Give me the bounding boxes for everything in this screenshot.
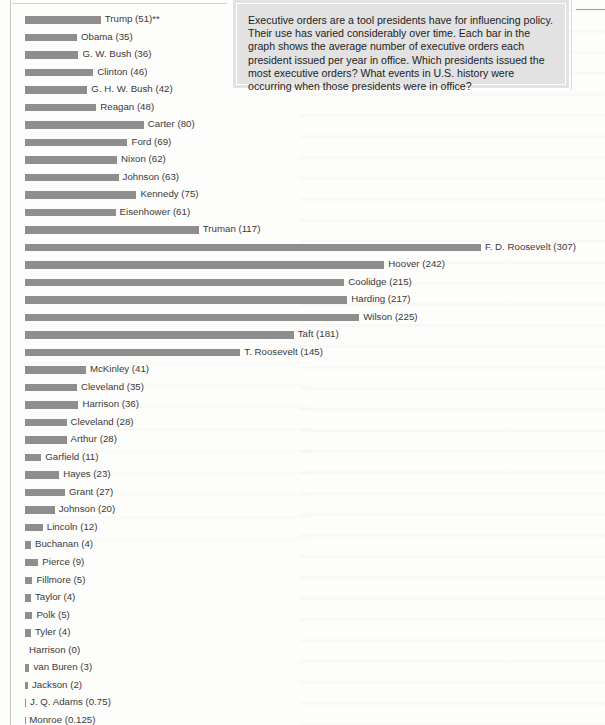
figure-page: Presidential Executive Orders Executive … xyxy=(0,0,605,725)
bar-label: Jackson (2) xyxy=(32,678,82,692)
top-right-rule xyxy=(576,9,605,10)
chart-bar-row: Garfield (11) xyxy=(0,450,605,468)
bar-hoover xyxy=(25,261,384,269)
bar-label: Buchanan (4) xyxy=(35,537,93,551)
bar-label: Cleveland (28) xyxy=(71,415,134,429)
chart-bar-row: Harding (217) xyxy=(0,292,605,310)
chart-bar-row: Trump (51)** xyxy=(0,12,605,30)
bar-johnson xyxy=(25,174,119,182)
chart-bar-row: G. W. Bush (36) xyxy=(0,47,605,65)
bar-t-roosevelt xyxy=(25,349,240,357)
bar-label: Wilson (225) xyxy=(363,310,417,324)
bar-label: J. Q. Adams (0.75) xyxy=(30,695,111,709)
chart-bar-row: Eisenhower (61) xyxy=(0,205,605,223)
bar-cleveland xyxy=(25,384,77,392)
bar-pierce xyxy=(25,559,38,567)
bar-coolidge xyxy=(25,279,344,287)
bar-harrison xyxy=(25,401,78,409)
bar-label: Truman (117) xyxy=(203,222,261,236)
bar-label: Carter (80) xyxy=(148,117,195,131)
chart-bar-row: Arthur (28) xyxy=(0,432,605,450)
chart-bar-row: Cleveland (28) xyxy=(0,415,605,433)
bar-reagan xyxy=(25,104,96,112)
bar-truman xyxy=(25,226,199,234)
bar-label: Harrison (36) xyxy=(82,397,139,411)
bar-label: Nixon (62) xyxy=(121,152,166,166)
bar-label: F. D. Roosevelt (307) xyxy=(485,240,576,254)
chart-bar-row: Jackson (2) xyxy=(0,678,605,696)
bar-label: Arthur (28) xyxy=(71,432,117,446)
bar-label: Reagan (48) xyxy=(100,100,154,114)
chart-bar-row: F. D. Roosevelt (307) xyxy=(0,240,605,258)
chart-bar-row: Monroe (0.125) xyxy=(0,713,605,725)
chart-bar-row: Harrison (0) xyxy=(0,643,605,661)
bar-label: Taft (181) xyxy=(298,327,339,341)
bar-arthur xyxy=(25,436,67,444)
chart-bar-row: Nixon (62) xyxy=(0,152,605,170)
bar-label: T. Roosevelt (145) xyxy=(244,345,323,359)
chart-bar-row: Coolidge (215) xyxy=(0,275,605,293)
bar-g-h-w-bush xyxy=(25,86,87,94)
bar-label: Kennedy (75) xyxy=(140,187,198,201)
chart-bar-row: Grant (27) xyxy=(0,485,605,503)
chart-bar-row: Tyler (4) xyxy=(0,625,605,643)
bar-label: Hayes (23) xyxy=(63,467,110,481)
bar-label: G. H. W. Bush (42) xyxy=(91,82,172,96)
chart-bar-row: Lincoln (12) xyxy=(0,520,605,538)
chart-bar-row: G. H. W. Bush (42) xyxy=(0,82,605,100)
bar-taylor xyxy=(25,594,31,602)
chart-bar-row: McKinley (41) xyxy=(0,362,605,380)
bar-fillmore xyxy=(25,577,32,585)
chart-bar-row: Clinton (46) xyxy=(0,65,605,83)
bar-f-d-roosevelt xyxy=(25,244,481,252)
chart-bar-row: Kennedy (75) xyxy=(0,187,605,205)
bar-jackson xyxy=(25,682,28,690)
bar-label: Coolidge (215) xyxy=(348,275,412,289)
chart-bar-row: van Buren (3) xyxy=(0,660,605,678)
bar-polk xyxy=(25,612,32,620)
bar-label: Grant (27) xyxy=(69,485,113,499)
bar-lincoln xyxy=(25,524,43,532)
chart-bar-row: Wilson (225) xyxy=(0,310,605,328)
chart-bar-row: Pierce (9) xyxy=(0,555,605,573)
bar-nixon xyxy=(25,156,117,164)
chart-bar-row: Johnson (63) xyxy=(0,170,605,188)
bar-johnson xyxy=(25,506,55,514)
chart-bar-row: Taft (181) xyxy=(0,327,605,345)
bar-label: Eisenhower (61) xyxy=(120,205,191,219)
bar-obama xyxy=(25,34,77,42)
bar-tyler xyxy=(25,629,31,637)
bar-label: Johnson (63) xyxy=(123,170,180,184)
chart-bar-row: Obama (35) xyxy=(0,30,605,48)
bar-grant xyxy=(25,489,65,497)
bar-harding xyxy=(25,296,347,304)
bar-label: Obama (35) xyxy=(81,30,133,44)
executive-orders-bar-chart: Trump (51)**Obama (35)G. W. Bush (36)Cli… xyxy=(0,12,605,725)
bar-label: Tyler (4) xyxy=(35,625,71,639)
bar-cleveland xyxy=(25,419,67,427)
bar-label: Monroe (0.125) xyxy=(29,713,95,725)
chart-bar-row: Buchanan (4) xyxy=(0,537,605,555)
bar-clinton xyxy=(25,69,93,77)
bar-kennedy xyxy=(25,191,136,199)
bar-label: Clinton (46) xyxy=(97,65,147,79)
bar-hayes xyxy=(25,471,59,479)
chart-bar-row: Ford (69) xyxy=(0,135,605,153)
chart-bar-row: Taylor (4) xyxy=(0,590,605,608)
bar-label: Johnson (20) xyxy=(59,502,116,516)
bar-j-q-adams xyxy=(25,699,26,707)
bar-garfield xyxy=(25,454,41,462)
bar-label: Ford (69) xyxy=(131,135,171,149)
chart-bar-row: Cleveland (35) xyxy=(0,380,605,398)
chart-bar-row: Harrison (36) xyxy=(0,397,605,415)
bar-g-w-bush xyxy=(25,51,78,59)
bar-buchanan xyxy=(25,541,31,549)
bar-label: van Buren (3) xyxy=(33,660,92,674)
chart-bar-row: Truman (117) xyxy=(0,222,605,240)
bar-taft xyxy=(25,331,294,339)
bar-label: Cleveland (35) xyxy=(81,380,144,394)
bar-label: Pierce (9) xyxy=(42,555,84,569)
bar-carter xyxy=(25,121,144,129)
chart-bar-row: Hayes (23) xyxy=(0,467,605,485)
bar-label: Harrison (0) xyxy=(29,643,80,657)
